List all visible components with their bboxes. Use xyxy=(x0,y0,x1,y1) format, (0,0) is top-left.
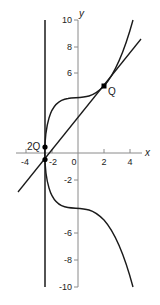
y-tick-label: 10 xyxy=(62,15,72,25)
point-2q-marker xyxy=(42,144,47,149)
point-neg-2q-marker xyxy=(42,157,47,162)
y-tick-label: -8 xyxy=(64,255,72,265)
point-q-marker xyxy=(102,84,107,89)
curve-upper-branch xyxy=(45,20,133,153)
x-tick-label: 4 xyxy=(127,157,132,167)
x-tick-label: -2 xyxy=(49,157,57,167)
point-q-label: Q xyxy=(108,86,116,97)
tangent-line xyxy=(18,39,141,192)
y-tick-label: 6 xyxy=(67,68,72,78)
elliptic-curve-diagram: 10 8 6 -2 -6 -8 -10 -4 -2 0 2 4 y x Q 2Q xyxy=(0,0,160,305)
y-tick-label: 8 xyxy=(67,42,72,52)
y-axis-label: y xyxy=(78,8,85,19)
x-axis-label: x xyxy=(144,147,151,158)
curve-lower-branch xyxy=(45,153,133,287)
x-tick-label: 2 xyxy=(101,157,106,167)
point-2q-label: 2Q xyxy=(27,141,41,152)
y-tick-label: -10 xyxy=(59,282,72,292)
y-tick-label: -2 xyxy=(64,175,72,185)
x-tick-label: 0 xyxy=(71,157,76,167)
x-tick-label: -4 xyxy=(21,157,29,167)
y-tick-label: -6 xyxy=(64,228,72,238)
